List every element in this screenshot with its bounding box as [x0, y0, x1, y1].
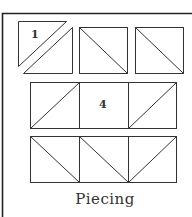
tile-4-label: 4: [99, 98, 107, 111]
piecing-diagram: [0, 0, 192, 217]
tile-3-diagonal: [136, 28, 184, 74]
tile-row2-a-diagonal: [31, 83, 80, 129]
figure-caption: Piecing: [30, 190, 180, 208]
tile-row3-c-diagonal: [129, 137, 177, 183]
tile-1-upper-triangle: [19, 22, 67, 67]
tile-row3-a-diagonal: [31, 137, 80, 183]
row-1: [19, 22, 184, 74]
tile-row3-b-diagonal: [80, 137, 129, 183]
tile-1-label: 1: [31, 28, 39, 41]
tile-row2-c-diagonal: [129, 83, 177, 129]
row-3: [31, 137, 177, 183]
tile-2-diagonal: [80, 28, 128, 74]
